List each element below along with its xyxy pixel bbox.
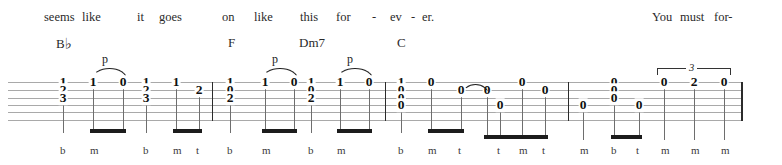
lyric-word: must <box>680 11 704 24</box>
beam <box>337 129 372 133</box>
tab-fret-number: 1 <box>172 75 181 89</box>
note-stem <box>724 87 725 140</box>
note-stem <box>340 87 341 129</box>
tab-fret-number: 0 <box>635 98 644 112</box>
lyric-word: er. <box>422 11 434 24</box>
tab-fret-number: 2 <box>195 83 204 97</box>
note-stem <box>369 87 370 129</box>
note-stem <box>694 87 695 140</box>
barline-3 <box>568 82 569 121</box>
lyric-word: You <box>652 11 672 24</box>
fingering-letter: b <box>60 145 66 156</box>
note-stem <box>639 110 640 135</box>
tuplet-number: 3 <box>686 63 697 74</box>
staff-line-3 <box>8 98 742 99</box>
barline-1 <box>212 82 213 121</box>
note-stem <box>199 95 200 129</box>
pull-off-arc-icon <box>337 68 373 79</box>
lyric-word: like <box>82 11 101 24</box>
lyric-word: for- <box>714 11 733 24</box>
fingering-letter: t <box>636 145 639 156</box>
fingering-letter: m <box>337 145 346 156</box>
chord-root: C <box>397 35 406 50</box>
tab-fret-number: 0 <box>720 75 729 89</box>
chord-symbol: F <box>228 36 235 49</box>
tab-fret-number: 2 <box>307 91 316 105</box>
note-stem <box>487 95 488 135</box>
chord-root: F <box>228 35 235 50</box>
tab-fret-number: 0 <box>397 98 406 112</box>
tab-fret-number: 2 <box>690 75 699 89</box>
lyric-word: seems <box>44 11 75 24</box>
note-stem <box>123 87 124 129</box>
tablature-sheet: seemslikeitgoesonlikethisfor-ev-er.Youmu… <box>0 0 782 165</box>
note-stem <box>583 110 584 140</box>
fingering-letter: m <box>428 145 437 156</box>
fingering-letter: b <box>611 145 617 156</box>
pull-off-label: p <box>347 52 353 67</box>
chord-symbol: C <box>397 36 406 49</box>
fingering-letter: b <box>143 145 149 156</box>
staff-line-5 <box>8 112 742 113</box>
fingering-letter: m <box>691 145 700 156</box>
note-stem <box>265 87 266 129</box>
tab-fret-number: 0 <box>541 83 550 97</box>
tab-fret-number: 0 <box>579 98 588 112</box>
chord-accidental: ♭ <box>65 36 72 52</box>
fingering-letter: b <box>308 145 314 156</box>
tab-fret-number: 2 <box>226 91 235 105</box>
beam <box>262 129 297 133</box>
lyric-word: on <box>222 11 235 24</box>
tab-fret-number: 0 <box>660 75 669 89</box>
note-stem <box>500 110 501 135</box>
note-stem <box>93 87 94 129</box>
fingering-letter: b <box>398 145 404 156</box>
beam <box>611 135 642 139</box>
fingering-letter: t <box>458 145 461 156</box>
tab-fret-number: 3 <box>142 91 151 105</box>
lyric-word: - <box>372 11 376 24</box>
note-stem <box>545 95 546 135</box>
fingering-letter: m <box>519 145 528 156</box>
barline-4 <box>741 82 743 121</box>
beam <box>173 129 202 133</box>
fingering-letter: t <box>542 145 545 156</box>
chord-symbol: Dm7 <box>299 36 325 49</box>
lyric-word: for <box>336 11 351 24</box>
lyric-word: ev <box>390 11 402 24</box>
lyric-word: like <box>254 11 273 24</box>
tab-fret-number: 0 <box>496 98 505 112</box>
pull-off-label: p <box>102 52 108 67</box>
lyric-word: this <box>300 11 318 24</box>
note-stem <box>664 87 665 140</box>
note-stem <box>431 87 432 129</box>
tab-fret-number: 3 <box>59 91 68 105</box>
pull-off-label: p <box>272 52 278 67</box>
beam <box>484 135 548 139</box>
fingering-letter: m <box>173 145 182 156</box>
pull-off-arc-icon <box>92 68 127 79</box>
fingering-letter: b <box>227 145 233 156</box>
staff-line-6 <box>8 120 742 121</box>
barline-2 <box>385 82 386 121</box>
fingering-letter: m <box>580 145 589 156</box>
chord-symbol: B♭ <box>56 36 72 51</box>
fingering-letter: m <box>90 145 99 156</box>
pull-off-arc-icon <box>262 68 298 79</box>
fingering-letter: m <box>661 145 670 156</box>
fingering-letter: m <box>262 145 271 156</box>
lyric-word: - <box>411 11 415 24</box>
lyric-word: it <box>137 11 144 24</box>
tab-fret-number: 0 <box>610 91 619 105</box>
staff-line-4 <box>8 105 742 106</box>
fingering-letter: m <box>721 145 730 156</box>
tab-fret-number: 0 <box>518 75 527 89</box>
chord-root: B <box>56 36 65 51</box>
tab-fret-number: 0 <box>427 75 436 89</box>
staff-line-2 <box>8 90 742 91</box>
lyric-word: goes <box>159 11 182 24</box>
fingering-letter: t <box>497 145 500 156</box>
note-stem <box>522 87 523 135</box>
beam <box>90 129 126 133</box>
note-stem <box>461 95 462 129</box>
